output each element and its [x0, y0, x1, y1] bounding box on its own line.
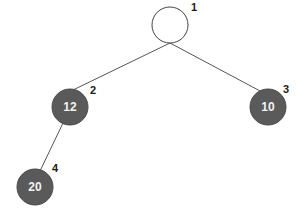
node-value: 12: [63, 100, 77, 114]
node-index-label: 4: [52, 162, 59, 174]
node-value: 10: [261, 100, 275, 114]
node-index-label: 2: [90, 84, 96, 96]
tree-svg: 1 12 2 10 3 20 4: [0, 0, 307, 218]
tree-node-4: 20 4: [17, 162, 59, 205]
node-circle: [152, 7, 188, 43]
tree-diagram: 1 12 2 10 3 20 4: [0, 0, 307, 218]
tree-node-1: 1: [152, 1, 197, 43]
edge-1-2: [73, 43, 170, 90]
edge-1-3: [170, 43, 262, 92]
node-index-label: 1: [191, 1, 197, 13]
node-value: 20: [28, 180, 42, 194]
tree-node-2: 12 2: [52, 84, 96, 125]
node-index-label: 3: [283, 83, 289, 95]
